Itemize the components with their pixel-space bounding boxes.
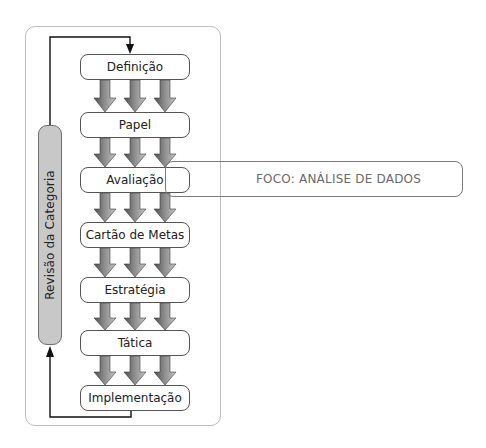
down-arrow-icon [124, 80, 146, 112]
diagram-canvas: Revisão da Categoria DefiniçãoPapelAvali… [0, 0, 486, 448]
down-arrow-icon [94, 193, 116, 222]
category-review-bar: Revisão da Categoria [38, 125, 62, 345]
down-arrow-icon [124, 138, 146, 167]
down-arrow-icon [154, 248, 176, 277]
down-arrow-icon [154, 356, 176, 385]
arrowhead-icon [126, 44, 134, 54]
down-arrow-icon [154, 80, 176, 112]
down-arrow-icon [94, 138, 116, 167]
down-arrow-icon [94, 356, 116, 385]
connector-layer [0, 0, 486, 448]
down-arrow-icon [124, 356, 146, 385]
down-arrow-icon [94, 248, 116, 277]
arrowhead-icon [46, 346, 54, 357]
process-step-label: Implementação [88, 391, 182, 405]
down-arrow-icon [94, 80, 116, 112]
process-step-label: Avaliação [106, 173, 163, 187]
focus-label: FOCO: ANÁLISE DE DADOS [256, 172, 421, 186]
down-arrow-icon [124, 248, 146, 277]
process-step-label: Definição [107, 60, 163, 74]
down-arrow-icon [94, 303, 116, 330]
process-step-label: Cartão de Metas [86, 228, 185, 242]
process-step-label: Papel [119, 118, 151, 132]
down-arrow-icon [124, 193, 146, 222]
down-arrow-icon [154, 303, 176, 330]
process-step-label: Estratégia [104, 283, 165, 297]
focus-callout: FOCO: ANÁLISE DE DADOS [165, 161, 463, 197]
down-arrow-icon [124, 303, 146, 330]
process-step: Definição [80, 54, 190, 80]
process-step: Tática [80, 330, 190, 356]
down-arrow-icon [154, 193, 176, 222]
process-step-label: Tática [118, 336, 153, 350]
process-step: Estratégia [80, 277, 190, 303]
process-step: Implementação [80, 385, 190, 411]
category-review-label: Revisão da Categoria [43, 170, 57, 300]
process-step: Cartão de Metas [80, 222, 190, 248]
process-step: Papel [80, 112, 190, 138]
